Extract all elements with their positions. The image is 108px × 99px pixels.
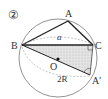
label-side-a: a xyxy=(57,32,62,42)
figure-number: ② xyxy=(8,8,19,22)
inscribed-angle-diagram: ② A B C O A' a 2R xyxy=(0,0,108,99)
label-A-prime: A' xyxy=(92,75,101,86)
label-C: C xyxy=(95,40,102,51)
side-AC xyxy=(68,21,93,45)
label-diameter-2R: 2R xyxy=(57,74,68,84)
label-B: B xyxy=(11,40,18,51)
label-A: A xyxy=(65,8,73,19)
label-O: O xyxy=(50,61,57,72)
